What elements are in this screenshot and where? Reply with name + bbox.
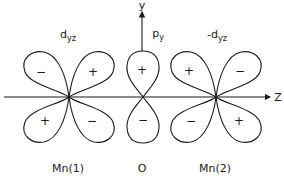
o-atom-label: O xyxy=(138,162,147,175)
z-axis-label: Z xyxy=(274,91,282,104)
sign-upper-left: + xyxy=(184,64,194,78)
o-orbital-label: py xyxy=(152,27,164,42)
sign-lower: − xyxy=(138,113,148,127)
sign-upper-left: − xyxy=(36,65,46,79)
mn2-orbital-label: -dyz xyxy=(207,28,227,43)
y-axis-label: y xyxy=(139,0,146,12)
mn1-atom-label: Mn(1) xyxy=(52,162,84,175)
sign-upper: + xyxy=(137,63,147,77)
mn1-dyz-orbital: − + + − dyz Mn(1) xyxy=(24,28,114,175)
sign-upper-right: − xyxy=(235,64,245,78)
mn2-atom-label: Mn(2) xyxy=(199,162,231,175)
o-py-orbital: + − py O xyxy=(127,27,164,175)
sign-upper-right: + xyxy=(88,65,98,79)
lobe-upper-left xyxy=(24,52,69,97)
sign-lower-left: + xyxy=(40,114,50,128)
mn2-dyz-orbital: + − − + -dyz Mn(2) xyxy=(171,28,261,175)
sign-lower-right: + xyxy=(234,114,244,128)
sign-lower-left: − xyxy=(186,114,196,128)
sign-lower-right: − xyxy=(87,114,97,128)
orbital-overlap-diagram: Z y − + + − dyz Mn(1) + − py O + − − xyxy=(0,0,284,182)
mn1-orbital-label: dyz xyxy=(60,28,76,43)
